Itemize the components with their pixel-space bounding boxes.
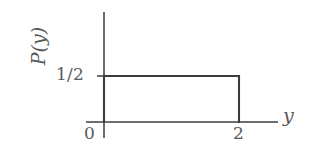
y-axis-tick-label-half: 1/2	[56, 66, 84, 83]
x-axis-tick-label-two: 2	[233, 125, 244, 142]
x-axis-label: y	[283, 106, 294, 125]
x-axis-tick-label-zero: 0	[84, 125, 95, 142]
pdf-curve	[104, 76, 239, 122]
probability-density-figure: P(y) 1/2 0 2 y	[0, 0, 310, 158]
